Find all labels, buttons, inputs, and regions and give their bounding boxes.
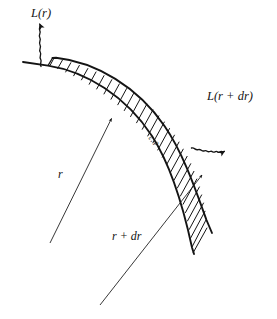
luminosity-out-label: L(r + dr) [207,90,253,103]
radius-outer-label: r + dr [112,230,141,242]
inner-boundary-arc [23,62,194,254]
luminosity-in-label: L(r) [31,7,51,20]
radius-inner-label: r [58,168,63,180]
wavy-arrow-up-left-icon [39,24,41,66]
shell-luminosity-diagram: L(r) L(r + dr) r r + dr ε, ρ [0,0,277,319]
outer-boundary-arc [53,58,213,233]
diagram-canvas [0,0,277,319]
wavy-arrow-up-right-icon [192,148,225,152]
